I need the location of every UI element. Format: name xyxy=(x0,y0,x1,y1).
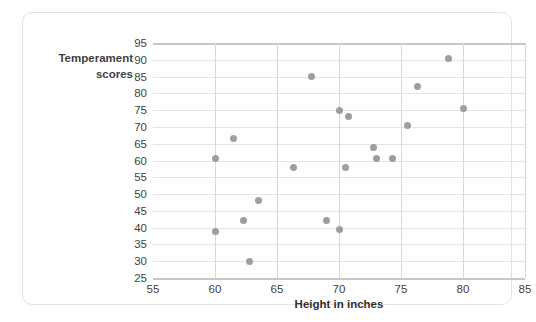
data-point xyxy=(336,226,343,233)
data-point xyxy=(460,105,467,112)
y-axis-tick-label: 85 xyxy=(113,72,147,84)
x-axis-tick-label: 75 xyxy=(381,284,421,296)
y-axis-tick-label: 60 xyxy=(113,156,147,168)
y-axis-tick-label: 75 xyxy=(113,105,147,117)
data-point xyxy=(345,113,352,120)
y-axis-tick-label: 50 xyxy=(113,189,147,201)
y-axis-tick-label: 90 xyxy=(113,55,147,67)
y-axis-tick-label: 55 xyxy=(113,172,147,184)
x-gridline xyxy=(277,43,278,278)
data-point xyxy=(414,83,421,90)
data-point xyxy=(212,155,219,162)
data-point xyxy=(212,228,219,235)
data-point xyxy=(370,144,377,151)
data-point xyxy=(246,258,253,265)
data-point xyxy=(373,155,380,162)
x-gridline xyxy=(525,43,526,278)
y-axis-tick-label: 25 xyxy=(113,273,147,285)
data-point xyxy=(290,164,297,171)
x-axis-tick-label: 55 xyxy=(133,284,173,296)
data-point xyxy=(230,135,237,142)
y-axis-tick-label: 95 xyxy=(113,38,147,50)
x-gridline xyxy=(339,43,340,278)
scatter-plot-area xyxy=(153,43,525,278)
y-axis-tick-label: 35 xyxy=(113,239,147,251)
data-point xyxy=(342,164,349,171)
x-axis-tick-label: 70 xyxy=(319,284,359,296)
data-point xyxy=(336,107,343,114)
data-point xyxy=(308,73,315,80)
y-gridline xyxy=(153,278,525,280)
x-axis-tick-label: 85 xyxy=(505,284,536,296)
data-point xyxy=(323,217,330,224)
data-point xyxy=(404,122,411,129)
data-point xyxy=(445,55,452,62)
y-axis-tick-label: 80 xyxy=(113,88,147,100)
y-axis-tick-label: 70 xyxy=(113,122,147,134)
x-gridline xyxy=(401,43,402,278)
data-point xyxy=(255,197,262,204)
x-axis-tick-label: 60 xyxy=(195,284,235,296)
y-axis-tick-label: 45 xyxy=(113,206,147,218)
x-axis-title: Height in inches xyxy=(153,298,525,310)
x-gridline xyxy=(463,43,464,278)
x-axis-tick-label: 65 xyxy=(257,284,297,296)
y-axis-tick-label: 40 xyxy=(113,223,147,235)
x-axis-tick-label: 80 xyxy=(443,284,483,296)
y-axis-tick-label: 65 xyxy=(113,139,147,151)
data-point xyxy=(240,217,247,224)
chart-card: Temperament scores Height in inches 2530… xyxy=(22,12,512,305)
y-axis-tick-label: 30 xyxy=(113,256,147,268)
